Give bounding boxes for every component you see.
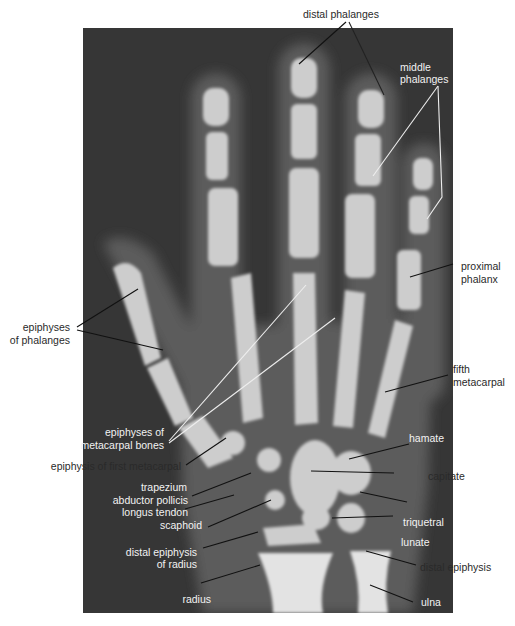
label-hamate: hamate (409, 432, 444, 445)
label-epiphyses-phalanges-1: epiphyses (0, 321, 70, 334)
label-capitate: capitate (428, 470, 465, 483)
label-ulna: ulna (421, 596, 441, 609)
label-proximal-phalanx-1: proximal (461, 260, 501, 273)
label-epiphyses-phalanges-2: of phalanges (0, 334, 70, 347)
label-fifth-metacarpal-2: metacarpal (453, 376, 505, 389)
label-proximal-phalanx-2: phalanx (461, 273, 498, 286)
label-trapezium: trapezium (100, 481, 187, 494)
label-epiphysis-first-metacarpal: epiphysis of first metacarpal (20, 460, 181, 473)
label-distal-phalanges: distal phalanges (303, 8, 379, 21)
label-radius: radius (150, 593, 211, 606)
label-epiphyses-metacarpal-2: metacarpal bones (60, 439, 164, 452)
label-abductor-pollicis-2: longus tendon (90, 506, 188, 519)
label-distal-epiphysis-radius-1: distal epiphysis (100, 546, 197, 559)
label-middle-phalanges-1: middle (400, 61, 431, 74)
label-fifth-metacarpal-1: fifth (453, 363, 470, 376)
label-abductor-pollicis-1: abductor pollicis (90, 494, 188, 507)
label-triquetral: triquetral (403, 516, 444, 529)
label-epiphyses-metacarpal-1: epiphyses of (60, 426, 164, 439)
label-middle-phalanges-2: phalanges (400, 73, 448, 86)
label-distal-epiphysis-ulna: distal epiphysis (420, 561, 491, 574)
label-distal-epiphysis-radius-2: of radius (100, 558, 197, 571)
label-lunate: lunate (401, 536, 430, 549)
label-scaphoid: scaphoid (120, 519, 202, 532)
